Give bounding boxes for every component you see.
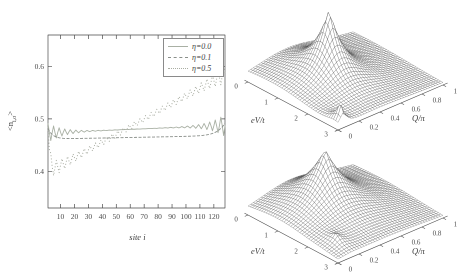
legend-entry: η=0.0 (168, 41, 223, 52)
legend: η=0.0 η=0.1 η=0.5 (163, 38, 224, 77)
y-axis-label-sub: i,σ (11, 116, 17, 122)
figure: <ni,σ> site i η=0.0 η=0.1 η=0.5 eV/t Q/π… (0, 0, 459, 279)
legend-line-sample (168, 57, 188, 58)
legend-label: η=0.1 (192, 53, 211, 62)
legend-line-sample (168, 68, 188, 69)
legend-entry: η=0.1 (168, 52, 223, 63)
surface-top-y-axis-label: Q/π (412, 113, 425, 123)
legend-entry: η=0.5 (168, 63, 223, 74)
surface-bottom-y-axis-label: Q/π (412, 246, 425, 256)
x-axis-label: site i (110, 232, 165, 242)
y-axis-label: <ni,σ> (5, 91, 21, 151)
figure-canvas (0, 0, 459, 279)
y-axis-label-open: <n (5, 122, 15, 131)
surface-bottom-x-axis-label: eV/t (251, 246, 265, 256)
legend-label: η=0.0 (192, 42, 211, 51)
y-axis-label-close: > (5, 111, 15, 116)
legend-line-sample (168, 46, 188, 47)
legend-label: η=0.5 (192, 64, 211, 73)
surface-top-x-axis-label: eV/t (251, 115, 265, 125)
